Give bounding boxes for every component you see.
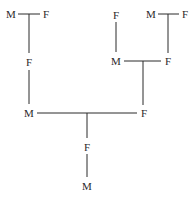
node-female: F: [162, 56, 174, 67]
node-male: M: [110, 56, 122, 67]
pedigree-diagram: M F F F M F M F M F F M: [0, 0, 196, 210]
node-female: F: [138, 108, 150, 119]
node-female: F: [179, 9, 191, 20]
node-female: F: [40, 9, 52, 20]
node-male: M: [81, 181, 93, 192]
node-female: F: [23, 57, 35, 68]
node-male: M: [145, 9, 157, 20]
node-female: F: [110, 10, 122, 21]
node-male: M: [23, 108, 35, 119]
node-male: M: [5, 9, 17, 20]
pedigree-lines: [0, 0, 196, 210]
node-female: F: [81, 142, 93, 153]
